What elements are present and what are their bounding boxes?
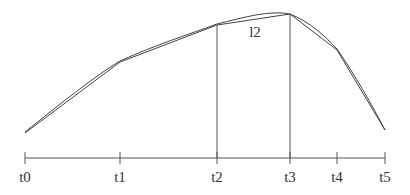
tick-label-t5: t5 bbox=[379, 169, 391, 185]
spline-approximation-diagram: t0t1t2t3t4t5 l2 bbox=[0, 0, 410, 195]
tick-labels: t0t1t2t3t4t5 bbox=[19, 169, 391, 185]
polyline-approximation bbox=[25, 14, 385, 133]
tick-label-t4: t4 bbox=[331, 169, 343, 185]
tick-label-t3: t3 bbox=[284, 169, 296, 185]
tick-label-t1: t1 bbox=[114, 169, 126, 185]
segment-label-l2: l2 bbox=[249, 24, 261, 40]
tick-label-t2: t2 bbox=[211, 169, 223, 185]
smooth-curve bbox=[25, 13, 385, 132]
time-axis bbox=[25, 152, 385, 164]
curve-group bbox=[25, 13, 385, 133]
tick-label-t0: t0 bbox=[19, 169, 31, 185]
